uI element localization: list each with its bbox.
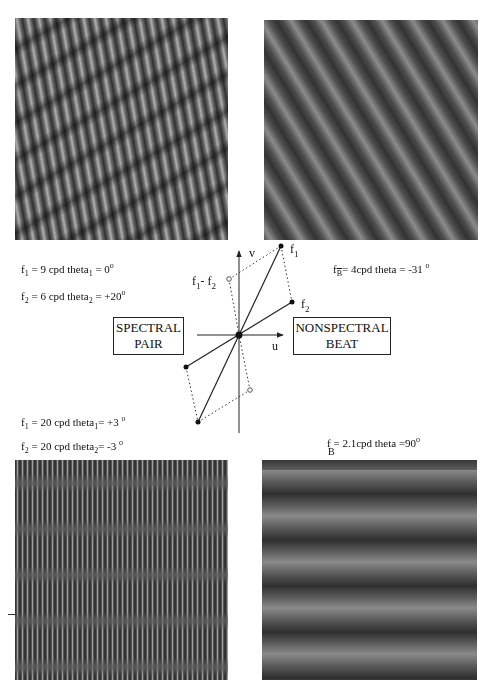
- grating-layer-f2: [15, 18, 228, 240]
- f1-label: f1: [290, 242, 299, 259]
- frequency-vectors: [186, 246, 292, 422]
- f2-dot: [290, 300, 295, 305]
- nonspectral-beat-line1: NONSPECTRAL: [294, 320, 390, 336]
- margin-tick-mark: [8, 614, 16, 615]
- grating-layer-beat-envelope: [15, 460, 228, 680]
- difference-hollow-dot: [227, 277, 232, 282]
- label-bottom-left-f1: f1 = 20 cpd theta1= +3 o: [21, 413, 126, 433]
- f2-label: f2: [301, 297, 310, 314]
- label-top-right-fb: fB= 4cpd theta = -31 o: [333, 260, 430, 280]
- nonspectral-beat-box: NONSPECTRAL BEAT: [293, 317, 391, 355]
- neg-f2-dot: [184, 365, 189, 370]
- vector-f2: [186, 302, 292, 367]
- vector-f1: [198, 246, 281, 422]
- label-top-left-f2: f2 = 6 cpd theta2 = +20o: [21, 287, 126, 307]
- v-axis-label: v: [249, 246, 255, 260]
- dotted-construction-lines: [186, 246, 292, 422]
- difference-label: f1- f2: [192, 274, 216, 291]
- neg-difference-hollow-dot: [248, 388, 253, 393]
- spectral-pair-grating-image-top: [15, 18, 228, 240]
- origin-dot: [236, 332, 243, 339]
- neg-f1-dot: [196, 420, 201, 425]
- label-top-left-f1: f1 = 9 cpd theta1 = 0o: [21, 260, 114, 280]
- label-bottom-right-fb: f = 2.1cpd theta =90o: [327, 434, 420, 449]
- spectral-pair-box: SPECTRAL PAIR: [113, 317, 184, 355]
- nonspectral-beat-grating-image-top: [264, 20, 478, 240]
- spectral-pair-grating-image-bottom: [15, 460, 228, 680]
- label-bottom-left-f2: f2 = 20 cpd theta2= -3 o: [21, 437, 123, 457]
- spectral-pair-line1: SPECTRAL: [114, 320, 183, 336]
- u-axis-label: u: [272, 339, 278, 353]
- nonspectral-beat-grating-image-bottom: [262, 460, 477, 680]
- grating-layer-beat: [264, 20, 478, 240]
- f1-dot: [279, 244, 284, 249]
- spectral-pair-line2: PAIR: [114, 336, 183, 352]
- nonspectral-beat-line2: BEAT: [294, 336, 390, 352]
- label-bottom-right-fb-subscript: B: [328, 446, 335, 458]
